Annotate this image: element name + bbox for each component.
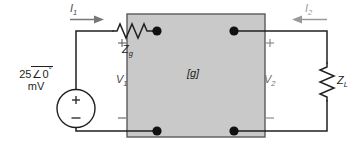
v1-subscript: 1 xyxy=(123,79,127,88)
v2-subscript: 2 xyxy=(271,79,275,88)
source-units: mV xyxy=(8,81,64,92)
two-port-block-label: [g] xyxy=(170,68,216,79)
terminal-dot-input-bottom xyxy=(152,126,161,135)
source-angle-group: ∠0° xyxy=(31,66,52,80)
source-angle-symbol: ∠ xyxy=(32,68,42,80)
zg-label: Zg xyxy=(122,44,133,58)
source-degree-symbol: ° xyxy=(49,66,52,75)
source-magnitude: 25 xyxy=(19,68,31,80)
source-value-label: 25∠0° mV xyxy=(8,66,64,92)
circuit-diagram-figure: 25∠0° mV Zg ZL I1 I2 V1 V2 [g] xyxy=(0,0,361,157)
zg-letter: Z xyxy=(122,43,129,55)
wire-source-to-zg xyxy=(76,31,113,99)
terminal-dot-output-bottom xyxy=(229,126,238,135)
polarity-mark-v2-plus xyxy=(266,39,274,47)
zl-label: ZL xyxy=(337,75,348,89)
v1-label: V1 xyxy=(116,74,128,88)
terminal-dot-input-top xyxy=(152,26,161,35)
zl-subscript: L xyxy=(344,80,348,89)
zg-subscript: g xyxy=(129,49,133,58)
zl-resistor-symbol xyxy=(320,63,334,101)
voltage-source-circle xyxy=(57,90,95,128)
terminal-dot-output-top xyxy=(229,26,238,35)
zl-letter: Z xyxy=(337,74,344,86)
i1-subscript: 1 xyxy=(73,8,77,17)
i2-subscript: 2 xyxy=(308,8,312,17)
i2-label: I2 xyxy=(305,3,312,17)
i1-label: I1 xyxy=(70,3,77,17)
v2-label: V2 xyxy=(264,74,276,88)
